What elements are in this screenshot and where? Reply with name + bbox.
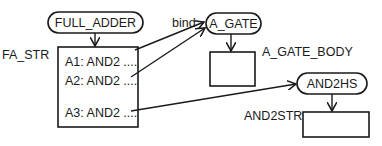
and2str-box	[303, 112, 369, 137]
fa-str-node: FA_STR A1: AND2 .... A2: AND2 .... A3: A…	[2, 47, 138, 127]
diagram-canvas: FULL_ADDER FA_STR A1: AND2 .... A2: AND2…	[0, 0, 382, 146]
and2str-label: AND2STR	[244, 109, 302, 123]
fa-str-row-3: A3: AND2 ....	[65, 106, 137, 120]
fa-str-row-2: A2: AND2 ....	[65, 74, 137, 88]
full-adder-label: FULL_ADDER	[55, 16, 136, 30]
and2hs-node: AND2HS	[297, 73, 367, 94]
and2hs-label: AND2HS	[307, 77, 358, 91]
bind-edge-label: bind	[172, 16, 196, 30]
edge-a3-to-and2hs	[131, 84, 296, 111]
a-gate-label: A_GATE	[209, 17, 257, 31]
a-gate-body-box	[210, 52, 255, 86]
fa-str-label: FA_STR	[2, 48, 49, 62]
a-gate-node: A_GATE	[206, 13, 261, 34]
a-gate-body-label: A_GATE_BODY	[262, 45, 353, 59]
edge-a2-to-a-gate	[131, 28, 205, 77]
fa-str-row-1: A1: AND2 ....	[65, 55, 137, 69]
full-adder-node: FULL_ADDER	[48, 12, 143, 33]
and2str-node: AND2STR	[244, 109, 369, 137]
